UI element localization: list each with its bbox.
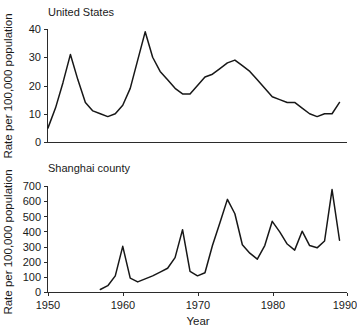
ytick-bottom-0: 0 [35, 286, 41, 298]
series-line-shanghai-county-render [100, 190, 339, 290]
xtick-1970: 1970 [186, 299, 210, 311]
series-line-united-states [48, 32, 340, 128]
ytick-bottom-400: 400 [23, 226, 41, 238]
ytick-top-40: 40 [29, 23, 41, 35]
ytick-top-0: 0 [35, 136, 41, 148]
panel-united-states: Rate per 100,000 population United State… [2, 6, 347, 159]
ytick-bottom-700: 700 [23, 180, 41, 192]
y-ticks-bottom [44, 187, 48, 293]
ytick-top-30: 30 [29, 51, 41, 63]
panel-title-shanghai-county: Shanghai county [48, 162, 130, 174]
xtick-1980: 1980 [261, 299, 285, 311]
ytick-bottom-100: 100 [23, 271, 41, 283]
xtick-1990: 1990 [333, 299, 357, 311]
ylabel-top: Rate per 100,000 population [2, 13, 14, 158]
xtick-1950: 1950 [36, 299, 60, 311]
ytick-bottom-300: 300 [23, 241, 41, 253]
panel-title-united-states: United States [48, 6, 115, 18]
xlabel: Year [186, 315, 209, 327]
xtick-1960: 1960 [111, 299, 135, 311]
y-ticks-top [44, 30, 48, 143]
ytick-bottom-500: 500 [23, 211, 41, 223]
y-ticklabels-bottom: 0 100 200 300 400 500 600 700 [23, 180, 41, 298]
ylabel-bottom: Rate per 100,000 population [2, 169, 14, 314]
panel-shanghai-county: Rate per 100,000 population Shanghai cou… [2, 162, 357, 327]
y-ticklabels-top: 0 10 20 30 40 [29, 23, 41, 148]
x-ticks-bottom [48, 293, 347, 297]
figure-container: Rate per 100,000 population United State… [0, 0, 357, 329]
ytick-top-10: 10 [29, 108, 41, 120]
ytick-bottom-200: 200 [23, 256, 41, 268]
dual-panel-line-chart: Rate per 100,000 population United State… [0, 0, 357, 329]
ytick-top-20: 20 [29, 80, 41, 92]
x-ticklabels: 1950 1960 1970 1980 1990 [36, 299, 357, 311]
ytick-bottom-600: 600 [23, 195, 41, 207]
